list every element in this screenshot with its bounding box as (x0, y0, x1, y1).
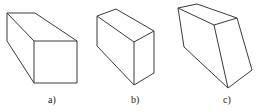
figure-canvas (0, 0, 259, 112)
prism-a-drawing (7, 13, 77, 83)
prism-c-drawing (178, 4, 252, 88)
figure-label-b: b) (131, 95, 139, 105)
figure-label-c: c) (223, 95, 231, 105)
figure-label-a: a) (48, 95, 56, 105)
prism-b-drawing (97, 9, 154, 85)
